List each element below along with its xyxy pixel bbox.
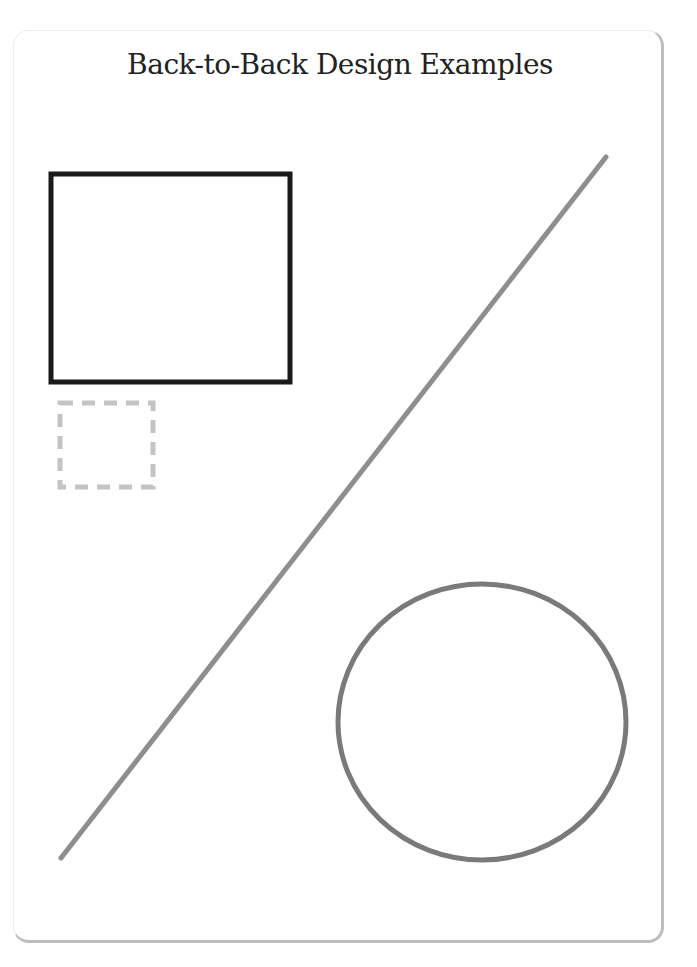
circle	[338, 584, 626, 860]
shapes-canvas	[0, 0, 697, 967]
solid-square	[51, 174, 290, 382]
dashed-square	[60, 403, 153, 487]
diagonal-line	[61, 157, 606, 858]
